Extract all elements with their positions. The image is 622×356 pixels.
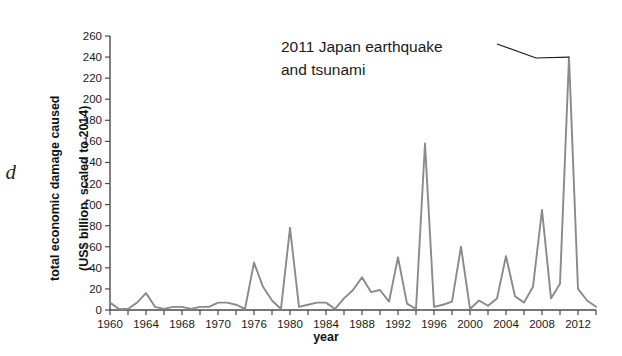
y-tick-label: 140 <box>83 156 102 168</box>
x-tick-label: 2008 <box>529 318 555 330</box>
y-tick-label: 60 <box>89 241 102 253</box>
y-tick-label: 260 <box>83 30 102 42</box>
y-tick-label: 160 <box>83 135 102 147</box>
x-tick-label: 2012 <box>565 318 591 330</box>
x-axis-ticks: 1960196419681970197619801984198819921996… <box>97 310 596 330</box>
y-tick-label: 0 <box>96 304 102 316</box>
y-tick-label: 120 <box>83 178 102 190</box>
x-tick-label: 1988 <box>349 318 375 330</box>
data-series-line <box>110 57 596 309</box>
x-tick-label: 2004 <box>493 318 519 330</box>
y-tick-label: 220 <box>83 72 102 84</box>
x-tick-label: 1992 <box>385 318 411 330</box>
y-tick-label: 240 <box>83 51 102 63</box>
x-tick-label: 1976 <box>241 318 267 330</box>
figure-root: d total economic damage caused (US$ bill… <box>0 0 622 356</box>
x-tick-label: 1996 <box>421 318 447 330</box>
y-tick-label: 20 <box>89 283 102 295</box>
y-tick-label: 80 <box>89 220 102 232</box>
x-tick-label: 1970 <box>205 318 231 330</box>
x-tick-label: 1984 <box>313 318 339 330</box>
y-tick-label: 100 <box>83 199 102 211</box>
annotation-group: 2011 Japan earthquake and tsunami <box>281 38 569 78</box>
annotation-line-2: and tsunami <box>281 61 365 78</box>
x-tick-label: 1964 <box>133 318 159 330</box>
x-tick-label: 1968 <box>169 318 195 330</box>
line-chart-plot: 020406080100120140160180200220240260 196… <box>0 0 622 356</box>
annotation-leader-line <box>497 44 569 58</box>
x-tick-label: 1960 <box>97 318 123 330</box>
y-tick-label: 200 <box>83 93 102 105</box>
y-tick-label: 40 <box>89 262 102 274</box>
x-tick-label: 1980 <box>277 318 303 330</box>
y-tick-label: 180 <box>83 114 102 126</box>
y-axis-ticks: 020406080100120140160180200220240260 <box>83 30 110 316</box>
x-tick-label: 2000 <box>457 318 483 330</box>
annotation-line-1: 2011 Japan earthquake <box>281 38 443 55</box>
